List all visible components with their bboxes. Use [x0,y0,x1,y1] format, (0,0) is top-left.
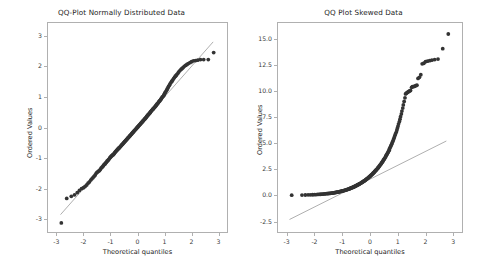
y-tickmark [274,169,277,170]
y-tickmark [274,117,277,118]
x-tickmark [165,233,166,236]
x-tick-label: -2 [71,238,95,245]
scatter-point [441,47,445,51]
scatter-point [59,221,63,225]
scatter-point [65,197,69,201]
y-tickmark [44,66,47,67]
x-tick-label: 1 [386,238,410,245]
x-tick-label: 3 [441,238,465,245]
x-tick-label: 2 [414,238,438,245]
y-tick-label: 1 [13,93,42,100]
qq-plot-panel-normal: QQ-Plot Normally Distributed Data Ordere… [0,0,243,270]
y-tickmark [274,91,277,92]
y-tickmark [44,97,47,98]
y-tick-label: -1 [13,154,42,161]
scatter-points [290,32,450,197]
x-tick-label: 0 [358,238,382,245]
x-tickmark [56,233,57,236]
y-tick-label: 5.0 [243,139,272,146]
y-tick-label: 10.0 [243,87,272,94]
scatter-point [202,58,206,62]
y-tick-label: 0.0 [243,191,272,198]
scatter-point [212,51,216,55]
qq-plot-panel-skewed: QQ Plot Skewed Data Ordered Values Theor… [242,0,485,270]
x-tickmark [453,233,454,236]
y-tickmark [274,195,277,196]
y-tick-label: 7.5 [243,113,272,120]
x-tick-label: -3 [275,238,299,245]
x-tick-label: 2 [180,238,204,245]
qq-plot-figure: QQ-Plot Normally Distributed Data Ordere… [0,0,485,270]
y-axis-label-normal: Ordered Values [26,108,34,158]
x-tickmark [287,233,288,236]
scatter-point [436,57,440,61]
x-tick-label: 3 [207,238,231,245]
x-tickmark [342,233,343,236]
y-tickmark [44,189,47,190]
scatter-point [401,103,405,107]
x-tickmark [192,233,193,236]
x-axis-label-skewed: Theoretical quantiles [277,248,463,256]
scatter-point [206,58,210,62]
x-tickmark [426,233,427,236]
y-tickmark [274,65,277,66]
x-tickmark [138,233,139,236]
y-tick-label: -2.5 [243,218,272,225]
scatter-point [415,83,419,87]
x-tickmark [398,233,399,236]
scatter-points [59,51,215,225]
scatter-point [402,100,406,104]
scatter-point [446,32,450,36]
y-tick-label: -2 [13,185,42,192]
x-tickmark [83,233,84,236]
y-tick-label: -3 [13,215,42,222]
x-tickmark [219,233,220,236]
scatter-point [69,194,73,198]
y-tickmark [274,39,277,40]
y-tickmark [274,222,277,223]
scatter-point [403,96,407,100]
y-tick-label: 12.5 [243,61,272,68]
scatter-canvas-skewed [242,0,485,270]
y-tickmark [44,36,47,37]
y-tick-label: 2 [13,62,42,69]
x-tick-label: -2 [302,238,326,245]
x-tickmark [110,233,111,236]
x-tick-label: -1 [98,238,122,245]
y-tickmark [44,158,47,159]
x-tickmark [314,233,315,236]
x-tick-label: 1 [153,238,177,245]
scatter-point [419,73,423,77]
y-tick-label: 0 [13,124,42,131]
scatter-point [300,193,304,197]
scatter-canvas-normal [0,0,243,270]
y-tick-label: 2.5 [243,165,272,172]
x-tickmark [370,233,371,236]
x-axis-label-normal: Theoretical quantiles [47,248,228,256]
y-tickmark [44,128,47,129]
y-tickmark [274,143,277,144]
scatter-point [199,58,203,62]
x-tick-label: -1 [330,238,354,245]
y-tick-label: 3 [13,32,42,39]
y-tickmark [44,219,47,220]
x-tick-label: 0 [126,238,150,245]
x-tick-label: -3 [44,238,68,245]
y-tick-label: 15.0 [243,35,272,42]
scatter-point [433,58,437,62]
scatter-point [290,193,294,197]
